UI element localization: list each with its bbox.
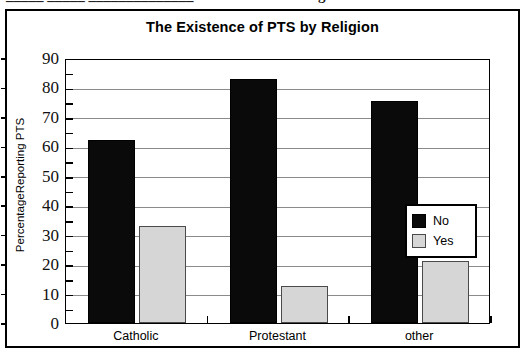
y-axis-minor-tick [66,118,73,120]
bar-other-yes [422,261,469,323]
y-axis-tick-label: 70 [13,109,59,126]
y-axis-minor-tick [66,192,73,194]
y-axis-tick-label: 40 [13,197,59,214]
legend-item-no[interactable]: No [412,211,469,231]
y-axis-minor-tick [66,148,73,150]
y-axis-tick-mark [1,117,7,119]
bar-catholic-no [88,140,135,323]
legend-swatch-no-icon [412,214,426,228]
y-axis-minor-tick [66,310,73,312]
y-axis-tick-mark [1,88,7,90]
y-axis-tick-label: 10 [13,286,59,303]
legend-label: Yes [433,235,453,248]
x-axis-category-label: Catholic [113,329,158,343]
y-axis-tick-mark [1,235,7,237]
x-axis-tick-mark [490,316,492,323]
chart-title: The Existence of PTS by Religion [7,19,518,35]
y-axis-tick-mark [1,323,7,325]
y-axis-tick-label: 20 [13,256,59,273]
y-axis-minor-tick [66,177,73,179]
bar-protestant-yes [281,286,328,323]
y-axis-tick-mark [1,176,7,178]
cropped-text-artifact: _____ _____ ______________ g [0,0,526,9]
y-axis-tick-label: 30 [13,227,59,244]
legend-item-yes[interactable]: Yes [412,231,469,251]
y-axis-minor-tick [66,206,73,208]
chart-legend: NoYes [405,204,477,258]
y-axis-tick-label: 50 [13,168,59,185]
y-axis-tick-label: 60 [13,138,59,155]
y-axis-minor-tick [66,74,73,76]
y-axis-minor-tick [66,221,73,223]
chart-frame: The Existence of PTS by Religion Percent… [5,9,520,348]
y-axis-minor-tick [66,280,73,282]
plot-area [65,59,490,324]
y-axis-tick-mark [1,264,7,266]
y-axis-tick-mark [1,58,7,60]
x-axis-category-label: other [405,329,434,343]
bar-catholic-yes [139,226,186,323]
y-axis-tick-mark [1,205,7,207]
y-axis-minor-tick [66,103,73,105]
y-axis-minor-tick [66,295,73,297]
y-axis-minor-tick [66,251,73,253]
y-axis-tick-labels: 0102030405060708090 [7,59,59,324]
y-axis-minor-tick [66,265,73,267]
x-axis-category-label: Protestant [249,329,306,343]
legend-swatch-yes-icon [412,234,426,248]
y-axis-tick-mark [1,294,7,296]
y-axis-tick-label: 80 [13,79,59,96]
y-axis-minor-tick [66,162,73,164]
x-axis-tick-mark [207,316,209,323]
gridline [66,89,489,90]
bar-protestant-no [230,79,277,323]
y-axis-minor-tick [66,236,73,238]
y-axis-tick-mark [1,147,7,149]
x-axis-tick-mark [348,316,350,323]
gridline [66,118,489,119]
legend-label: No [433,215,449,228]
y-axis-minor-tick [66,89,73,91]
y-axis-minor-tick [66,133,73,135]
y-axis-tick-label: 90 [13,50,59,67]
y-axis-tick-label: 0 [13,315,59,332]
